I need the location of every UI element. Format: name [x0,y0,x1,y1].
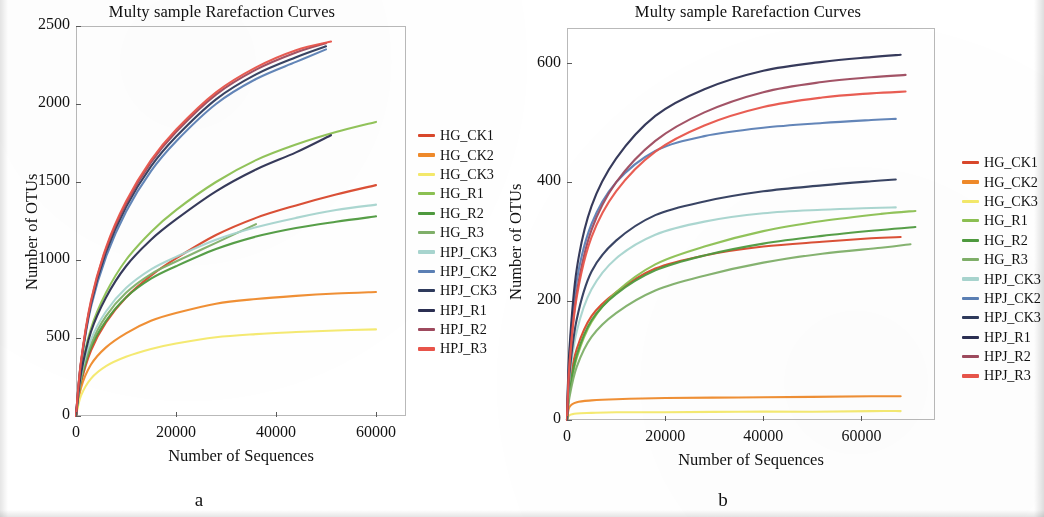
legend-label: HG_R3 [440,224,484,241]
legend-label: HG_CK2 [440,147,494,164]
xtick-mark [567,416,568,421]
ytick-label: 500 [14,327,70,345]
legend-label: HG_R3 [984,251,1028,268]
legend-label: HG_R2 [440,205,484,222]
legend-label: HPJ_R1 [984,329,1031,346]
ytick-mark [567,420,572,421]
legend-swatch-icon [418,309,435,312]
legend-item-HPJ_R3[interactable]: HPJ_R3 [962,366,1041,385]
panel-b-plot-area [567,28,935,420]
legend-item-HPJ_R1[interactable]: HPJ_R1 [962,328,1041,347]
legend-swatch-icon [418,134,435,137]
xtick-label: 40000 [231,423,321,441]
legend-item-HG_CK3[interactable]: HG_CK3 [962,192,1041,211]
xtick-mark [76,412,77,417]
legend-label: HG_R2 [984,232,1028,249]
curve-HG_CK3 [567,411,901,420]
legend-swatch-icon [418,270,435,273]
legend-label: HPJ_CK3 [984,271,1041,288]
legend-swatch-icon [418,153,435,156]
ytick-mark [76,26,81,27]
ytick-mark [567,182,572,183]
scan-edge-right [1034,0,1044,517]
panel-a-xlabel: Number of Sequences [76,446,406,466]
ytick-label: 0 [14,405,70,423]
legend-item-HPJ_R2[interactable]: HPJ_R2 [418,320,497,339]
legend-label: HG_CK2 [984,174,1038,191]
ytick-mark [76,104,81,105]
xtick-label: 0 [31,423,121,441]
legend-swatch-icon [962,336,979,339]
ytick-mark [76,260,81,261]
legend-label: HG_R1 [984,212,1028,229]
legend-label: HPJ_R2 [440,321,487,338]
xtick-mark [665,416,666,421]
legend-swatch-icon [418,231,435,234]
legend-swatch-icon [962,374,979,377]
legend-swatch-icon [962,316,979,319]
legend-item-HPJ_CK3[interactable]: HPJ_CK3 [418,242,497,261]
legend-item-HG_R2[interactable]: HG_R2 [962,231,1041,250]
legend-swatch-icon [418,173,435,176]
xtick-mark [176,412,177,417]
legend-item-HPJ_CK2[interactable]: HPJ_CK2 [962,289,1041,308]
legend-label: HPJ_R1 [440,302,487,319]
panel-a-plot-area [76,26,406,416]
legend-item-HG_R3[interactable]: HG_R3 [962,250,1041,269]
legend-label: HPJ_R3 [440,340,487,357]
legend-swatch-icon [962,200,979,203]
legend-label: HG_CK1 [984,154,1038,171]
panel-a: Multy sample Rarefaction Curves 05001000… [0,0,522,517]
legend-item-HPJ_CK3[interactable]: HPJ_CK3 [418,281,497,300]
legend-item-HPJ_R3[interactable]: HPJ_R3 [418,339,497,358]
legend-swatch-icon [962,258,979,261]
legend-item-HG_R1[interactable]: HG_R1 [418,184,497,203]
ytick-mark [76,416,81,417]
legend-item-HG_R2[interactable]: HG_R2 [418,204,497,223]
legend-label: HG_CK1 [440,127,494,144]
panel-b-legend: HG_CK1HG_CK2HG_CK3HG_R1HG_R2HG_R3HPJ_CK3… [962,153,1041,386]
scan-edge-bottom [0,510,1044,517]
curve-HG_R3 [567,244,910,420]
curve-HPJ_R1 [76,135,331,416]
legend-label: HG_CK3 [984,193,1038,210]
curve-HG_CK3 [76,329,376,416]
panel-b-ylabel: Number of OTUs [506,184,526,300]
xtick-label: 60000 [331,423,421,441]
curve-HPJ_CK3 [76,205,376,416]
legend-item-HPJ_CK2[interactable]: HPJ_CK2 [418,262,497,281]
curve-HG_CK2 [76,292,376,416]
legend-item-HPJ_CK3[interactable]: HPJ_CK3 [962,308,1041,327]
legend-swatch-icon [962,161,979,164]
legend-item-HPJ_CK3[interactable]: HPJ_CK3 [962,269,1041,288]
legend-label: HPJ_CK2 [440,263,497,280]
legend-item-HG_R3[interactable]: HG_R3 [418,223,497,242]
xtick-mark [763,416,764,421]
curve-HG_R1 [567,211,915,420]
legend-item-HPJ_R2[interactable]: HPJ_R2 [962,347,1041,366]
ytick-mark [567,301,572,302]
panel-a-label: a [0,489,460,511]
curve-HG_R1 [76,122,376,416]
legend-swatch-icon [962,219,979,222]
legend-item-HG_CK3[interactable]: HG_CK3 [418,165,497,184]
legend-swatch-icon [962,355,979,358]
xtick-mark [376,412,377,417]
legend-item-HG_CK1[interactable]: HG_CK1 [962,153,1041,172]
curve-HG_R2 [76,216,376,416]
ytick-label: 2000 [14,93,70,111]
legend-item-HG_CK2[interactable]: HG_CK2 [418,145,497,164]
legend-swatch-icon [962,297,979,300]
legend-label: HPJ_CK3 [440,282,497,299]
legend-item-HPJ_R1[interactable]: HPJ_R1 [418,301,497,320]
ytick-mark [76,182,81,183]
legend-swatch-icon [418,347,435,350]
curve-HPJ_CK3 [567,179,896,420]
legend-item-HG_CK2[interactable]: HG_CK2 [962,172,1041,191]
panel-b-curves [567,28,935,420]
legend-item-HG_CK1[interactable]: HG_CK1 [418,126,497,145]
panel-a-title: Multy sample Rarefaction Curves [42,2,402,22]
xtick-label: 0 [522,427,612,445]
curve-HG_CK1 [567,237,901,420]
legend-item-HG_R1[interactable]: HG_R1 [962,211,1041,230]
